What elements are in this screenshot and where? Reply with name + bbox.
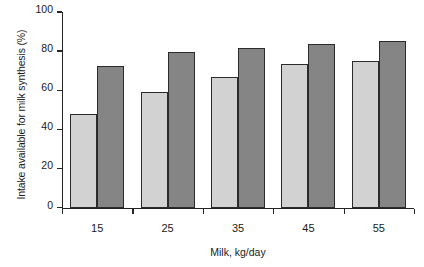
plot-area: 020406080100 1525354555 xyxy=(62,12,414,209)
bar-light-series-15 xyxy=(70,114,97,208)
bar-dark-series-35 xyxy=(238,48,265,207)
y-tick-label: 100 xyxy=(35,4,53,15)
y-tick-label: 20 xyxy=(41,160,53,171)
y-axis-title: Intake available for milk synthesis (%) xyxy=(14,7,28,222)
x-tick-label-35: 35 xyxy=(216,222,260,234)
bar-light-series-45 xyxy=(281,64,308,208)
x-tick-mark xyxy=(62,209,63,214)
x-axis-title: Milk, kg/day xyxy=(62,246,414,259)
bar-light-series-25 xyxy=(141,92,168,207)
y-tick-mark xyxy=(57,129,62,130)
x-tick-mark xyxy=(414,209,415,214)
x-axis-line xyxy=(62,208,414,209)
x-tick-label-15: 15 xyxy=(75,222,119,234)
bar-chart-figure: Intake available for milk synthesis (%) … xyxy=(0,0,424,267)
y-tick-mark xyxy=(57,90,62,91)
x-tick-mark xyxy=(132,209,133,214)
y-axis-line xyxy=(62,12,63,209)
x-tick-label-25: 25 xyxy=(146,222,190,234)
bar-light-series-35 xyxy=(211,77,238,208)
x-tick-label-55: 55 xyxy=(357,222,401,234)
bar-light-series-55 xyxy=(352,61,379,208)
x-tick-mark xyxy=(273,209,274,214)
x-tick-mark xyxy=(203,209,204,214)
y-tick-label: 80 xyxy=(41,43,53,54)
y-tick-label: 0 xyxy=(47,200,53,211)
y-tick-label: 40 xyxy=(41,121,53,132)
bar-dark-series-55 xyxy=(379,41,406,207)
x-tick-mark xyxy=(344,209,345,214)
y-tick-mark xyxy=(57,11,62,12)
bar-dark-series-15 xyxy=(97,66,124,208)
bar-dark-series-25 xyxy=(168,52,195,208)
y-tick-label: 60 xyxy=(41,82,53,93)
x-tick-label-45: 45 xyxy=(286,222,330,234)
y-tick-mark xyxy=(57,50,62,51)
y-tick-mark xyxy=(57,168,62,169)
bar-dark-series-45 xyxy=(308,44,335,207)
